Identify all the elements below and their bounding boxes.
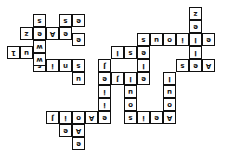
grid-cell[interactable]: s <box>137 33 150 46</box>
grid-cell[interactable]: s <box>124 111 137 124</box>
grid-cell[interactable]: A <box>163 111 176 124</box>
grid-cell[interactable]: z <box>20 27 33 40</box>
grid-cell[interactable]: e <box>137 46 150 59</box>
grid-cell[interactable]: J <box>111 72 124 85</box>
grid-cell[interactable]: u <box>72 72 85 85</box>
grid-cell[interactable]: o <box>124 98 137 111</box>
crossword-grid: zesuoilelselJlseAeJleliuuiooJioAesieAeAe… <box>0 0 235 163</box>
grid-cell[interactable]: w <box>33 40 46 53</box>
grid-cell[interactable]: e <box>72 33 85 46</box>
grid-cell[interactable]: l <box>189 46 202 59</box>
grid-cell[interactable]: e <box>59 27 72 40</box>
grid-cell[interactable]: e <box>72 137 85 150</box>
grid-cell[interactable]: w <box>33 53 46 66</box>
grid-cell[interactable]: l <box>189 33 202 46</box>
grid-cell[interactable]: i <box>98 98 111 111</box>
grid-cell[interactable]: A <box>46 27 59 40</box>
grid-cell[interactable]: e <box>33 27 46 40</box>
grid-cell[interactable]: i <box>137 111 150 124</box>
grid-cell[interactable]: u <box>20 46 33 59</box>
grid-cell[interactable]: s <box>176 59 189 72</box>
grid-cell[interactable]: e <box>59 124 72 137</box>
grid-cell[interactable]: u <box>150 33 163 46</box>
grid-cell[interactable]: e <box>150 111 163 124</box>
grid-cell[interactable]: i <box>46 59 59 72</box>
grid-cell[interactable]: e <box>72 14 85 27</box>
grid-cell[interactable]: e <box>98 111 111 124</box>
grid-cell[interactable]: i <box>98 85 111 98</box>
grid-cell[interactable]: i <box>176 33 189 46</box>
grid-cell[interactable]: A <box>85 111 98 124</box>
grid-cell[interactable]: n <box>59 59 72 72</box>
grid-cell[interactable]: e <box>137 72 150 85</box>
grid-cell[interactable]: l <box>111 46 124 59</box>
grid-cell[interactable]: e <box>189 20 202 33</box>
grid-cell[interactable]: J <box>46 111 59 124</box>
grid-cell[interactable]: u <box>163 85 176 98</box>
grid-cell[interactable]: o <box>163 98 176 111</box>
grid-cell[interactable]: J <box>98 59 111 72</box>
grid-cell[interactable]: z <box>189 7 202 20</box>
grid-cell[interactable]: l <box>124 72 137 85</box>
grid-cell[interactable]: o <box>163 33 176 46</box>
grid-cell[interactable]: e <box>189 59 202 72</box>
grid-cell[interactable]: A <box>72 124 85 137</box>
grid-cell[interactable]: A <box>202 59 215 72</box>
grid-cell[interactable]: s <box>59 14 72 27</box>
grid-cell[interactable]: s <box>33 14 46 27</box>
grid-cell[interactable]: o <box>72 111 85 124</box>
grid-cell[interactable]: s <box>72 59 85 72</box>
grid-cell[interactable]: i <box>59 111 72 124</box>
grid-cell[interactable]: s <box>124 46 137 59</box>
grid-cell[interactable]: e <box>202 33 215 46</box>
grid-cell[interactable]: l <box>163 72 176 85</box>
grid-cell[interactable]: 1 <box>7 46 20 59</box>
grid-cell[interactable]: u <box>124 85 137 98</box>
grid-cell[interactable]: l <box>137 59 150 72</box>
grid-cell[interactable]: e <box>98 72 111 85</box>
